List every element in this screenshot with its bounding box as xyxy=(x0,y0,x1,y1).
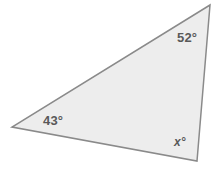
triangle-angle-diagram: 52° 43° x° xyxy=(0,0,218,173)
angle-label-bottom-right: x° xyxy=(174,136,186,148)
angle-label-top: 52° xyxy=(177,31,197,44)
angle-label-left: 43° xyxy=(43,114,63,127)
